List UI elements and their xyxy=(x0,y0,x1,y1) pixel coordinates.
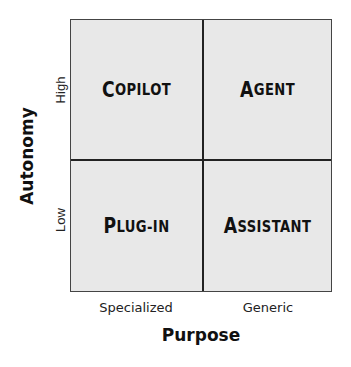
quadrant-label-initial: A xyxy=(224,214,238,238)
x-tick-generic: Generic xyxy=(212,300,324,315)
quadrant-copilot: COPILOT xyxy=(83,20,190,159)
vertical-divider xyxy=(202,20,204,291)
quadrant-label-initial: A xyxy=(240,78,254,102)
quadrant-label-rest: GENT xyxy=(254,80,295,99)
horizontal-divider xyxy=(71,159,331,161)
quadrant-label-rest: SSISTANT xyxy=(237,217,311,236)
quadrant-assistant: ASSISTANT xyxy=(215,161,321,291)
quadrant-label-initial: P xyxy=(103,214,116,238)
quadrant-label-initial: C xyxy=(102,78,115,102)
quadrant-agent: AGENT xyxy=(215,20,321,159)
x-axis-title: Purpose xyxy=(70,325,332,345)
matrix-grid: COPILOT AGENT PLUG-IN ASSISTANT xyxy=(70,19,332,292)
x-tick-specialized: Specialized xyxy=(80,300,192,315)
y-tick-high: High xyxy=(53,65,69,115)
y-tick-low: Low xyxy=(53,195,69,245)
quadrant-plug-in: PLUG-IN xyxy=(83,161,190,291)
y-axis-title: Autonomy xyxy=(17,106,39,206)
quadrant-label-rest: LUG-IN xyxy=(116,217,169,236)
quadrant-label-rest: OPILOT xyxy=(115,80,171,99)
